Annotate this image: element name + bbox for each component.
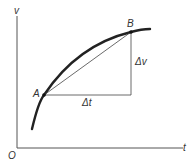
point-b-label: B bbox=[127, 18, 134, 29]
velocity-curve bbox=[32, 29, 150, 129]
x-axis-label: t bbox=[183, 142, 187, 153]
point-a bbox=[42, 93, 46, 97]
point-a-label: A bbox=[32, 88, 40, 99]
point-b bbox=[129, 30, 133, 34]
delta-t-label: Δt bbox=[81, 97, 93, 108]
chord-ab bbox=[44, 32, 131, 95]
y-axis-label: v bbox=[14, 5, 20, 16]
velocity-time-diagram: v t O A B Δt Δv bbox=[0, 0, 189, 167]
diagram-canvas: v t O A B Δt Δv bbox=[0, 0, 189, 167]
delta-v-label: Δv bbox=[134, 56, 148, 67]
origin-label: O bbox=[8, 150, 16, 161]
